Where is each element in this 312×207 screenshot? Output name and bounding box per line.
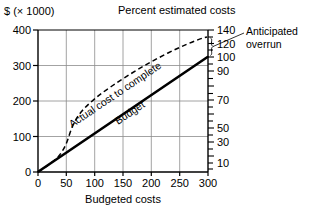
cost-performance-chart: $ (× 1000) Percent estimated costs [0, 0, 312, 207]
ytick-label-400: 400 [13, 24, 31, 36]
x-axis-title: Budgeted costs [85, 193, 161, 205]
chart-container: $ (× 1000) Percent estimated costs [0, 0, 312, 207]
ytick-label-300: 300 [13, 60, 31, 72]
y2tick-label-140: 140 [217, 24, 235, 36]
ytick-label-200: 200 [13, 95, 31, 107]
xtick-label-300: 300 [199, 177, 217, 189]
xtick-label-200: 200 [142, 177, 160, 189]
y2tick-label-50: 50 [217, 122, 229, 134]
top-axis-title: Percent estimated costs [118, 4, 236, 16]
ytick-label-100: 100 [13, 131, 31, 143]
xtick-label-0: 0 [35, 177, 41, 189]
y2tick-label-90: 90 [217, 65, 229, 77]
y2tick-label-100: 100 [217, 51, 235, 63]
left-axis-unit-label: $ (× 1000) [4, 5, 54, 17]
xtick-label-250: 250 [171, 177, 189, 189]
xtick-label-100: 100 [86, 177, 104, 189]
xtick-label-150: 150 [114, 177, 132, 189]
y2tick-label-30: 30 [217, 136, 229, 148]
y2tick-label-70: 70 [217, 94, 229, 106]
xtick-label-50: 50 [60, 177, 72, 189]
anticipated-overrun-label-line2: overrun [246, 38, 282, 50]
anticipated-overrun-label-line1: Anticipated [246, 25, 298, 37]
y2tick-label-10: 10 [217, 157, 229, 169]
ytick-label-0: 0 [25, 166, 31, 178]
